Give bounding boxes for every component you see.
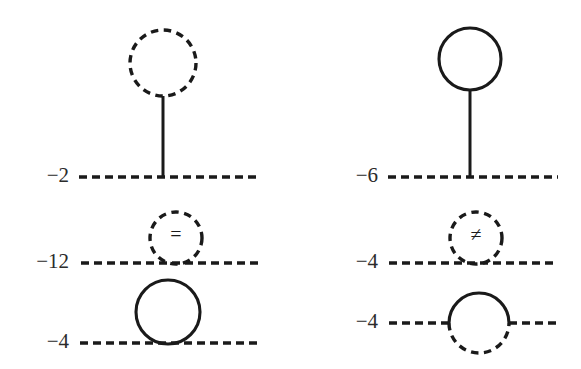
loop-dashed-top-left xyxy=(130,30,196,96)
diagram-tangent-solid-loop: −4 xyxy=(47,280,259,353)
coefficient-label-top-right: −6 xyxy=(356,163,378,187)
loop-solid-bottom-left xyxy=(136,280,200,344)
coefficient-label-middle-left: −12 xyxy=(36,249,69,273)
diagram-tangent-dashed-loop-equals: −12 = xyxy=(36,212,259,273)
figure-root: −2 −6 −12 = −4 ≠ −4 xyxy=(0,0,581,369)
coefficient-label-bottom-left: −4 xyxy=(47,329,70,353)
not-equals-symbol: ≠ xyxy=(471,223,482,245)
diagram-tadpole-solid-loop: −6 xyxy=(356,28,558,187)
diagram-tangent-dashed-loop-notequals: −4 ≠ xyxy=(356,212,558,273)
loop-upper-semicircle-solid xyxy=(449,293,509,323)
loop-solid-top-right xyxy=(439,28,501,90)
coefficient-label-top-left: −2 xyxy=(47,163,69,187)
diagram-bisected-loop-half-solid: −4 xyxy=(356,293,558,353)
coefficient-label-bottom-right: −4 xyxy=(356,309,379,333)
coefficient-label-middle-right: −4 xyxy=(356,249,379,273)
diagram-tadpole-dashed-loop: −2 xyxy=(47,30,259,187)
equals-symbol: = xyxy=(170,223,181,245)
diagram-canvas: −2 −6 −12 = −4 ≠ −4 xyxy=(0,0,581,369)
loop-lower-semicircle-dashed xyxy=(449,323,509,353)
